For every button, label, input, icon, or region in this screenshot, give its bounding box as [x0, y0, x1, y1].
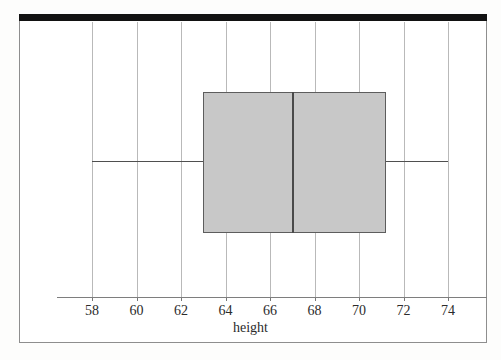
- x-tick-label: 66: [250, 303, 290, 319]
- whisker-low: [92, 161, 203, 162]
- box-iqr: [203, 92, 385, 233]
- plot-area: 586062646668707274: [0, 0, 501, 360]
- x-tick-label: 74: [428, 303, 468, 319]
- x-tick-label: 58: [72, 303, 112, 319]
- x-gridline: [137, 22, 138, 297]
- x-tick-label: 70: [339, 303, 379, 319]
- x-tick-label: 62: [161, 303, 201, 319]
- x-gridline: [404, 22, 405, 297]
- boxplot-figure: 586062646668707274 height: [0, 0, 501, 360]
- x-tick-label: 60: [117, 303, 157, 319]
- x-axis-title: height: [0, 320, 501, 336]
- x-gridline: [92, 22, 93, 297]
- x-gridline: [181, 22, 182, 297]
- median-line: [292, 92, 294, 233]
- whisker-high: [386, 161, 448, 162]
- x-tick-label: 68: [295, 303, 335, 319]
- x-tick-label: 64: [206, 303, 246, 319]
- x-axis-line: [57, 297, 487, 298]
- x-tick-label: 72: [384, 303, 424, 319]
- x-gridline: [448, 22, 449, 297]
